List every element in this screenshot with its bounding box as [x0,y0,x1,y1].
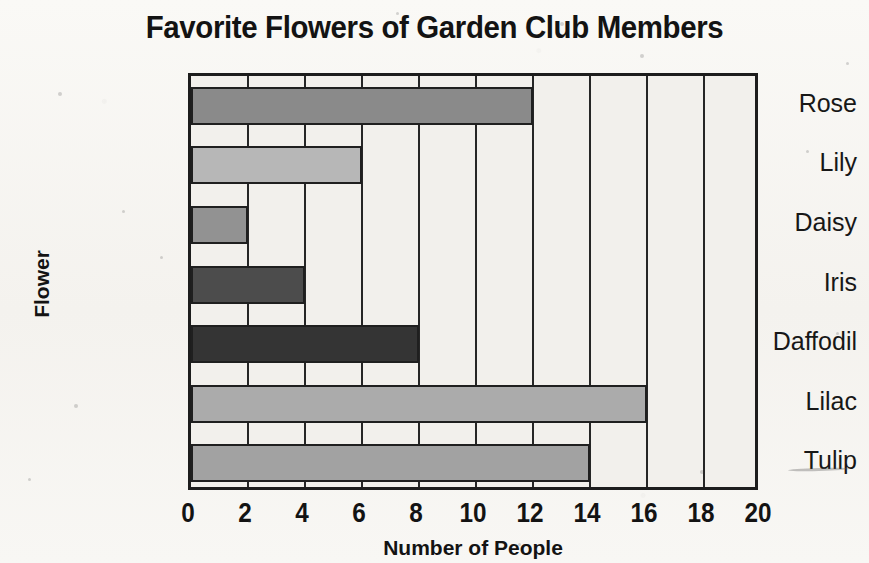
bar-rose [191,87,533,125]
scan-speck [160,256,163,259]
bar-row [191,146,761,184]
scan-speck [846,62,849,65]
bar-iris [191,266,305,304]
y-axis-title: Flower [30,209,54,359]
bar-row [191,385,761,423]
x-tick-16: 16 [617,498,671,529]
bar-row [191,444,761,482]
scan-speck [74,404,78,408]
x-tick-20: 20 [731,498,785,529]
x-tick-18: 18 [674,498,728,529]
bar-lilac [191,385,647,423]
scan-speck [28,478,31,481]
x-axis-title: Number of People [188,536,758,560]
bar-lily [191,146,362,184]
chart-page: Favorite Flowers of Garden Club Members … [0,0,869,563]
x-tick-10: 10 [446,498,500,529]
scan-speck [58,92,62,96]
scan-speck [640,54,644,58]
bar-tulip [191,444,590,482]
bar-row [191,206,761,244]
bar-daisy [191,206,248,244]
bar-row [191,266,761,304]
plot-area [188,73,758,490]
x-tick-8: 8 [389,498,443,529]
x-tick-4: 4 [275,498,329,529]
page-title: Favorite Flowers of Garden Club Members [22,10,848,46]
x-tick-12: 12 [503,498,557,529]
bar-daffodil [191,325,419,363]
bar-row [191,325,761,363]
x-tick-6: 6 [332,498,386,529]
scan-speck [122,210,125,213]
x-tick-0: 0 [161,498,215,529]
x-tick-14: 14 [560,498,614,529]
x-tick-2: 2 [218,498,272,529]
bar-row [191,87,761,125]
